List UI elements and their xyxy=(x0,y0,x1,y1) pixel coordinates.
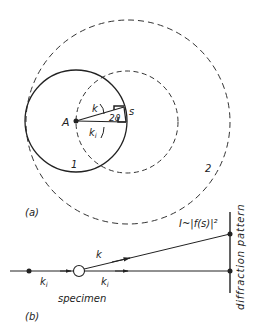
label-A: A xyxy=(61,116,70,129)
source-dot xyxy=(27,269,32,274)
arc-arrow-ki xyxy=(101,127,104,138)
panel-a-label: (a) xyxy=(25,207,39,218)
label-circle-2: 2 xyxy=(205,163,211,174)
direct-beam-spot xyxy=(228,269,233,274)
label-ki-left: ki xyxy=(40,276,48,289)
specimen-label: specimen xyxy=(58,293,106,304)
panel-b: I~|f(s)|² diffraction pattern k ki ki sp… xyxy=(10,204,246,322)
label-k-b: k xyxy=(96,249,103,260)
panel-a: A k ki 2ϑ s 1 2 (a) xyxy=(25,20,230,224)
point-A-dot xyxy=(74,119,79,124)
label-s: s xyxy=(129,106,134,117)
label-angle: 2ϑ xyxy=(109,113,121,123)
scattered-arrow xyxy=(112,258,130,262)
scattered-beam xyxy=(80,234,230,270)
panel-b-label: (b) xyxy=(25,311,39,322)
screen-label: diffraction pattern xyxy=(235,204,246,310)
circle-2-dashed-large xyxy=(26,20,230,224)
label-k: k xyxy=(92,103,99,114)
specimen-circle xyxy=(74,266,85,277)
label-circle-1: 1 xyxy=(71,159,77,170)
label-ki-right: ki xyxy=(101,276,109,289)
intensity-label: I~|f(s)|² xyxy=(179,218,218,230)
label-ki: ki xyxy=(89,127,97,140)
diffraction-spot xyxy=(228,232,233,237)
diffraction-diagram: A k ki 2ϑ s 1 2 (a) I~|f(s)|² diffractio… xyxy=(0,0,263,336)
